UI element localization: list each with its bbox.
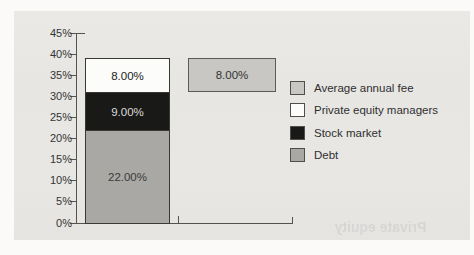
legend-label: Average annual fee bbox=[314, 81, 414, 95]
y-tick-label: 15% bbox=[28, 154, 72, 165]
y-tick-label: 30% bbox=[28, 91, 72, 102]
stacked-bar-segment-private-equity-managers: 8.00% bbox=[85, 58, 170, 93]
legend-label: Stock market bbox=[314, 126, 381, 140]
legend-label: Debt bbox=[314, 148, 338, 162]
x-axis-mid-tick bbox=[178, 216, 179, 223]
legend-swatch-debt bbox=[290, 148, 305, 162]
segment-value-label: 9.00% bbox=[111, 106, 144, 118]
y-tick-label: 45% bbox=[28, 28, 72, 39]
y-tick-label: 0% bbox=[28, 218, 72, 229]
legend-swatch-average-annual-fee bbox=[290, 81, 305, 95]
y-tick-label: 40% bbox=[28, 49, 72, 60]
stacked-bar-segment-stock-market: 9.00% bbox=[85, 92, 170, 131]
y-axis-line bbox=[76, 33, 77, 224]
scanned-chart-figure: 0%5%10%15%20%25%30%35%40%45% 22.00%9.00%… bbox=[0, 0, 474, 255]
y-tick-label: 35% bbox=[28, 70, 72, 81]
y-tick-label: 10% bbox=[28, 175, 72, 186]
floating-bar-average-annual-fee: 8.00% bbox=[188, 58, 276, 92]
y-axis-top-cap bbox=[77, 33, 85, 34]
segment-value-label: 22.00% bbox=[108, 171, 147, 183]
legend-swatch-private-equity-managers bbox=[290, 103, 305, 117]
x-axis-end-tick bbox=[292, 217, 293, 223]
y-tick-label: 25% bbox=[28, 112, 72, 123]
stacked-bar-segment-debt: 22.00% bbox=[85, 130, 170, 224]
legend-label: Private equity managers bbox=[314, 103, 438, 117]
floating-bar-value-label: 8.00% bbox=[216, 69, 249, 81]
page-bleed-through-text: Private equity bbox=[298, 219, 463, 235]
y-tick-label: 20% bbox=[28, 133, 72, 144]
y-tick-label: 5% bbox=[28, 196, 72, 207]
segment-value-label: 8.00% bbox=[111, 70, 144, 82]
scan-panel-background bbox=[14, 11, 470, 240]
legend-swatch-stock-market bbox=[290, 126, 305, 140]
